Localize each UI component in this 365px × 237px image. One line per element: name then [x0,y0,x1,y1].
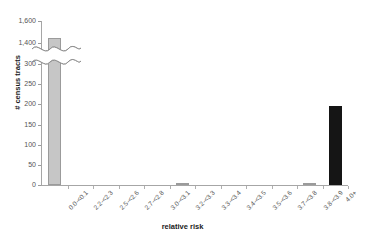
y-axis-tick-mark [38,104,41,105]
x-axis-tick-mark [170,186,171,189]
y-axis-tick-mark [38,125,41,126]
bar [329,106,342,185]
x-axis-tick-label: 3.2-<3.3 [194,189,216,211]
x-axis-title: relative risk [0,222,365,231]
x-axis-tick-mark [272,186,273,189]
x-axis-tick-mark [297,186,298,189]
y-axis-tick-label: 300 [6,60,36,67]
x-axis-tick-mark [144,186,145,189]
x-axis-tick-label: 0.0-<0.1 [67,189,89,211]
bar-chart: # census tracts 0501001502002503001,4001… [0,0,365,237]
x-axis-tick-mark [246,186,247,189]
y-axis-tick-label: 100 [6,141,36,148]
y-axis-tick-mark [38,43,41,44]
y-axis-tick-mark [38,185,41,186]
x-axis-tick-mark [221,186,222,189]
x-axis-tick-label: 2.7-<2.8 [143,189,165,211]
y-axis-tick-label: 1,400 [6,39,36,46]
x-axis-tick-label: 3.0-<3.1 [169,189,191,211]
y-axis-tick-mark [38,84,41,85]
y-axis-tick-mark [38,165,41,166]
x-axis-tick-mark [195,186,196,189]
x-axis-tick-mark [68,186,69,189]
y-axis-tick-mark [38,64,41,65]
x-axis-tick-label: 3.4-<3.5 [245,189,267,211]
y-axis-tick-label: 200 [6,100,36,107]
x-axis-tick-label: 3.8-<3.9 [322,189,344,211]
x-axis-tick-mark [348,186,349,189]
x-axis-tick-mark [323,186,324,189]
plot-area [42,21,348,185]
x-axis-tick-mark [93,186,94,189]
y-axis-tick-label: 150 [6,121,36,128]
x-axis-tick-label: 3.5-<3.6 [271,189,293,211]
x-axis-tick-mark [119,186,120,189]
y-axis-tick-mark [38,145,41,146]
x-axis-tick-label: 2.2-<2.3 [92,189,114,211]
x-axis-tick-label: 3.3-<3.4 [220,189,242,211]
bar [48,38,61,186]
x-axis-tick-label: 4.0+ [344,189,358,203]
x-axis-tick-label: 3.7-<3.8 [296,189,318,211]
y-axis-tick-mark [38,21,41,22]
x-axis-tick-label: 2.5-<2.6 [118,189,140,211]
y-axis-tick-label: 50 [6,161,36,168]
y-axis-tick-label: 1,600 [6,17,36,24]
y-axis-tick-label: 250 [6,80,36,87]
